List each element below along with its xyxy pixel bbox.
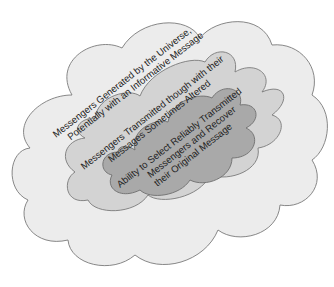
nested-cloud-diagram: Messengers Generated by the Universe, Po… <box>0 0 334 287</box>
